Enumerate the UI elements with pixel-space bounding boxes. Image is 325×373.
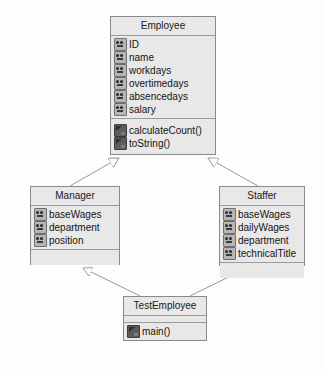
attribute-label: department xyxy=(238,234,289,247)
edge-test-uses-manager xyxy=(83,268,140,296)
method-label: toString() xyxy=(129,137,170,150)
method-icon xyxy=(114,124,127,137)
class-name-employee: Employee xyxy=(111,17,215,36)
field-icon xyxy=(114,77,127,90)
attribute-row: dailyWages xyxy=(220,221,304,234)
attribute-row: baseWages xyxy=(31,208,119,221)
class-box-manager[interactable]: Manager baseWages department position xyxy=(30,186,120,265)
attribute-row: technicalTitle xyxy=(220,247,304,260)
field-icon xyxy=(114,64,127,77)
edge-staffer-extends-employee xyxy=(208,158,258,186)
attribute-label: baseWages xyxy=(238,208,290,221)
attribute-row: department xyxy=(220,234,304,247)
attribute-row: workdays xyxy=(111,64,215,77)
field-icon xyxy=(223,208,236,221)
attribute-label: dailyWages xyxy=(238,221,289,234)
field-icon xyxy=(114,38,127,51)
class-name-staffer: Staffer xyxy=(220,187,304,206)
field-icon xyxy=(223,234,236,247)
attribute-label: overtimedays xyxy=(129,77,188,90)
attribute-label: salary xyxy=(129,103,156,116)
method-label: calculateCount() xyxy=(129,124,202,137)
attribute-label: name xyxy=(129,51,154,64)
field-icon xyxy=(114,90,127,103)
field-icon xyxy=(223,221,236,234)
attribute-label: department xyxy=(49,221,100,234)
class-name-manager: Manager xyxy=(31,187,119,206)
field-icon xyxy=(34,221,47,234)
attributes-compartment-testemployee xyxy=(124,316,206,323)
attribute-row: baseWages xyxy=(220,208,304,221)
method-row: main() xyxy=(124,325,206,338)
class-box-testemployee[interactable]: TestEmployee main() xyxy=(123,296,207,341)
attribute-label: technicalTitle xyxy=(238,247,296,260)
attribute-label: workdays xyxy=(129,64,171,77)
class-box-employee[interactable]: Employee ID name workdays overtimedays a… xyxy=(110,16,216,155)
attribute-label: baseWages xyxy=(49,208,101,221)
attributes-compartment-employee: ID name workdays overtimedays absenceday… xyxy=(111,36,215,119)
edge-manager-extends-employee xyxy=(70,158,119,186)
attribute-row: department xyxy=(31,221,119,234)
attributes-compartment-manager: baseWages department position xyxy=(31,206,119,250)
methods-compartment-employee: calculateCount() toString() xyxy=(111,119,215,152)
methods-compartment-staffer xyxy=(220,263,304,278)
method-icon xyxy=(127,325,140,338)
method-row: toString() xyxy=(111,137,215,150)
class-box-staffer[interactable]: Staffer baseWages dailyWages department … xyxy=(219,186,305,266)
uml-class-diagram-canvas: Employee ID name workdays overtimedays a… xyxy=(0,0,325,373)
field-icon xyxy=(34,234,47,247)
attribute-label: position xyxy=(49,234,83,247)
field-icon xyxy=(114,103,127,116)
field-icon xyxy=(114,51,127,64)
attribute-row: name xyxy=(111,51,215,64)
attribute-label: ID xyxy=(129,38,139,51)
attribute-row: absencedays xyxy=(111,90,215,103)
attribute-row: position xyxy=(31,234,119,247)
class-name-testemployee: TestEmployee xyxy=(124,297,206,316)
attribute-row: overtimedays xyxy=(111,77,215,90)
attribute-row: ID xyxy=(111,38,215,51)
field-icon xyxy=(223,247,236,260)
methods-compartment-testemployee: main() xyxy=(124,323,206,340)
methods-compartment-manager xyxy=(31,250,119,265)
method-icon xyxy=(114,137,127,150)
field-icon xyxy=(34,208,47,221)
method-label: main() xyxy=(142,325,170,338)
attribute-label: absencedays xyxy=(129,90,188,103)
method-row: calculateCount() xyxy=(111,124,215,137)
attribute-row: salary xyxy=(111,103,215,116)
attributes-compartment-staffer: baseWages dailyWages department technica… xyxy=(220,206,304,263)
